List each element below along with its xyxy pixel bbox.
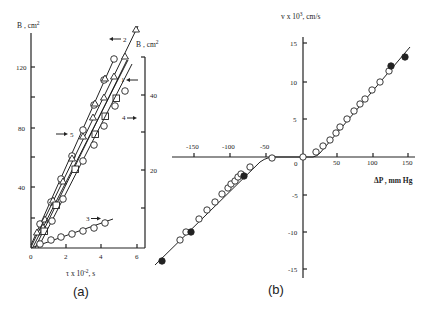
- b-ylabel: v x 103, cm/s: [281, 11, 320, 21]
- svg-text:4: 4: [122, 114, 126, 122]
- a-rtick-20: 20: [150, 167, 158, 175]
- a-xlabel: τ x 10-2, s: [66, 268, 95, 278]
- a-label-3: 3: [86, 215, 101, 223]
- a-curve-1-markers: [40, 75, 109, 230]
- b-xtick-0: 0: [294, 160, 298, 168]
- b-ytick-neg5: -5: [292, 192, 298, 200]
- svg-text:3: 3: [86, 215, 90, 223]
- b-ytick-10: 10: [290, 79, 298, 87]
- a-xtick-0: 0: [29, 253, 33, 261]
- a-ytick-40: 40: [18, 184, 26, 192]
- svg-text:1: 1: [121, 76, 125, 84]
- a-label-1: 1: [121, 76, 138, 84]
- b-xtick-50: 50: [333, 159, 341, 167]
- b-xlabel: ΔP , mm Hg: [374, 176, 413, 185]
- b-ytick-15: 15: [290, 40, 298, 48]
- svg-text:5: 5: [70, 131, 74, 139]
- a-right-ylabel: B , cm2: [136, 39, 159, 49]
- a-label-2: 2: [109, 36, 127, 44]
- b-xtick-100: 100: [367, 159, 378, 167]
- svg-text:2: 2: [123, 36, 127, 44]
- b-ytick-5: 5: [293, 116, 297, 124]
- a-xtick-6: 6: [135, 253, 139, 261]
- panel-b: 15 10 5 -5 -10 -15 -150 -100 -50 0 50 10…: [155, 11, 415, 297]
- b-xtick-neg50: -50: [260, 143, 270, 151]
- a-caption: (a): [73, 284, 89, 299]
- b-xtick-neg100: -100: [222, 143, 235, 151]
- a-ytick-80: 80: [18, 125, 26, 133]
- panel-a: 120 80 40 40 20 0 2 4 6 B , cm2 B , cm2 …: [16, 20, 159, 299]
- figure: 120 80 40 40 20 0 2 4 6 B , cm2 B , cm2 …: [0, 0, 428, 314]
- a-label-4: 4: [122, 114, 137, 122]
- a-xtick-4: 4: [99, 253, 103, 261]
- a-ytick-120: 120: [16, 64, 27, 72]
- a-curve-5-line: [31, 57, 115, 245]
- b-ytick-neg15: -15: [288, 266, 298, 274]
- a-label-5: 5: [56, 131, 74, 139]
- b-ytick-neg10: -10: [288, 229, 298, 237]
- a-left-ylabel: B , cm2: [17, 20, 40, 30]
- a-rtick-40: 40: [150, 92, 158, 100]
- b-open-markers: [177, 68, 392, 243]
- b-caption: (b): [268, 282, 284, 297]
- b-xtick-150: 150: [402, 159, 413, 167]
- b-xtick-neg150: -150: [186, 143, 199, 151]
- a-xtick-2: 2: [64, 253, 68, 261]
